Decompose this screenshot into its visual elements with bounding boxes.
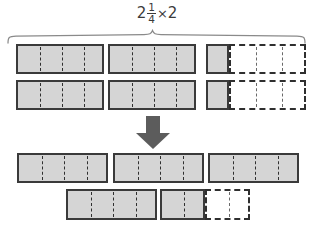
- expression-factor: 2: [168, 4, 178, 22]
- quarter-dividers: [210, 155, 297, 181]
- top-row2-whole-rect-2: [108, 80, 196, 110]
- fraction-denominator: 4: [147, 13, 156, 25]
- quarter-dividers: [18, 82, 102, 108]
- fraction-model-figure: 214×2: [0, 0, 314, 234]
- top-row1-whole-rect-2: [108, 44, 196, 74]
- quarter-dividers: [231, 46, 304, 72]
- down-arrow-icon: [133, 116, 173, 150]
- top-row2-shaded-fourth: [206, 80, 229, 110]
- fraction-numerator: 1: [147, 2, 156, 13]
- quarter-dividers: [231, 82, 304, 108]
- bottom-row2-empty-fourths: [205, 189, 250, 220]
- top-row1-empty-fourths: [229, 44, 306, 74]
- top-brace: [0, 28, 314, 44]
- expression-fraction: 14: [147, 2, 156, 25]
- bottom-row1-whole-rect-3: [208, 153, 299, 183]
- quarter-dividers: [18, 46, 102, 72]
- quarter-dividers: [110, 46, 194, 72]
- expression-whole-number: 2: [137, 4, 147, 22]
- bottom-row2-whole-rect-1: [66, 189, 157, 220]
- quarter-dividers: [162, 191, 203, 218]
- top-row2-empty-fourths: [229, 80, 306, 110]
- bottom-row1-whole-rect-1: [17, 153, 108, 183]
- bottom-row2-shaded-fourths: [160, 189, 205, 220]
- top-row1-whole-rect-1: [16, 44, 104, 74]
- top-row1-shaded-fourth: [206, 44, 229, 74]
- bottom-row1-whole-rect-2: [113, 153, 204, 183]
- quarter-dividers: [19, 155, 106, 181]
- quarter-dividers: [68, 191, 155, 218]
- quarter-dividers: [110, 82, 194, 108]
- expression-label: 214×2: [0, 2, 314, 25]
- top-row2-whole-rect-1: [16, 80, 104, 110]
- quarter-dividers: [207, 191, 248, 218]
- quarter-dividers: [115, 155, 202, 181]
- multiplication-sign: ×: [157, 6, 168, 21]
